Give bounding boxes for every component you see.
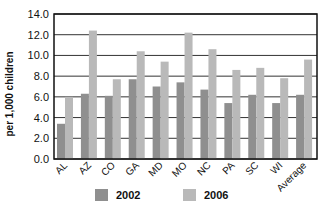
y-tick-label: 14.0 [28, 8, 49, 20]
legend-label-2006: 2006 [204, 189, 228, 201]
x-tick-label: CO [99, 159, 118, 178]
bar-2002-GA [129, 79, 137, 159]
bar-2002-SC [248, 95, 256, 159]
bar-2002-MO [177, 82, 185, 159]
bar-2006-SC [256, 68, 264, 159]
x-tick-label: GA [123, 159, 141, 177]
y-tick-label: 12.0 [28, 29, 49, 41]
bar-2002-Average [296, 95, 304, 159]
y-tick-label: 0.0 [34, 153, 49, 165]
y-tick-label: 4.0 [34, 112, 49, 124]
x-tick-label: MO [170, 159, 189, 178]
bar-2002-NC [200, 90, 208, 159]
y-tick-label: 2.0 [34, 132, 49, 144]
legend-swatch-2006 [183, 189, 196, 201]
bar-2002-AL [57, 124, 65, 159]
x-tick-label: AZ [76, 160, 93, 177]
bar-2002-MD [153, 87, 161, 160]
bar-2002-AZ [81, 94, 89, 159]
x-tick-label: PA [220, 159, 237, 176]
bar-2006-AZ [89, 31, 97, 159]
bars [57, 31, 312, 159]
legend-item-2006: 2006 [183, 189, 228, 201]
x-axis-ticks: ALAZCOGAMDMONCPASCWIAverage [53, 159, 309, 193]
legend-item-2002: 2002 [95, 189, 140, 201]
bar-2006-Average [304, 60, 312, 159]
bar-2002-WI [272, 103, 280, 159]
x-tick-label: SC [243, 160, 261, 178]
bar-2006-MD [161, 62, 169, 159]
bar-2006-CO [113, 79, 121, 159]
bar-2006-AL [65, 97, 73, 159]
x-tick-label: AL [53, 159, 70, 176]
y-axis-label: per 1,000 children [4, 51, 15, 136]
bar-2006-GA [137, 51, 145, 159]
bar-2002-PA [224, 103, 232, 159]
legend-label-2002: 2002 [116, 189, 140, 201]
bar-2006-PA [232, 70, 240, 159]
bar-chart: 0.02.04.06.08.010.012.014.0 ALAZCOGAMDMO… [0, 0, 329, 213]
x-tick-label: MD [146, 160, 165, 179]
y-tick-label: 6.0 [34, 91, 49, 103]
y-axis-ticks: 0.02.04.06.08.010.012.014.0 [28, 8, 49, 165]
y-tick-label: 8.0 [34, 70, 49, 82]
bar-2006-MO [185, 33, 193, 159]
x-tick-label: WI [268, 160, 284, 176]
bar-2006-WI [280, 78, 288, 159]
legend-swatch-2002 [95, 189, 108, 201]
x-tick-label: NC [195, 160, 213, 178]
bar-2006-NC [208, 49, 216, 159]
y-tick-label: 10.0 [28, 49, 49, 61]
bar-2002-CO [105, 96, 113, 159]
